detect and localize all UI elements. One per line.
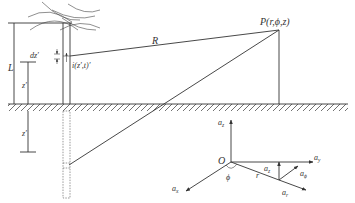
cloud-arcs: [28, 2, 100, 30]
element-label: dz′: [30, 51, 39, 60]
x-axis-label: ax: [172, 184, 179, 194]
distance-label: R: [151, 35, 158, 46]
unit-phi-label: aϕ: [300, 169, 307, 179]
unit-r-label: ar: [282, 188, 289, 198]
field-point-label: P(r,ϕ,z): [259, 16, 290, 28]
unit-z2-label: az: [264, 164, 271, 174]
ground-hatch: [8, 104, 348, 111]
radius-line: [231, 162, 279, 180]
image-channel: [63, 111, 70, 198]
y-axis-label: ay: [314, 153, 321, 163]
distance-line: [70, 30, 279, 56]
z-axis-label: az: [218, 118, 225, 128]
x-axis: [186, 162, 231, 191]
source-height-label: z′: [21, 81, 27, 90]
unit-phi-vector: [279, 166, 298, 180]
coordinate-system: az ay ax r ar aϕ az O ϕ: [172, 118, 321, 198]
height-label: L: [7, 62, 14, 73]
image-depth-label: z′: [21, 129, 27, 138]
angle-label: ϕ: [226, 173, 230, 182]
origin-label: O: [218, 155, 225, 166]
lightning-channel-diagram: L dz′ z′ i(z′,t)′ R P(r,ϕ,z) z′ az ay: [0, 0, 355, 203]
image-distance-line: [69, 30, 279, 165]
current-element-arrows: [54, 49, 70, 64]
current-label: i(z′,t)′: [72, 61, 91, 70]
